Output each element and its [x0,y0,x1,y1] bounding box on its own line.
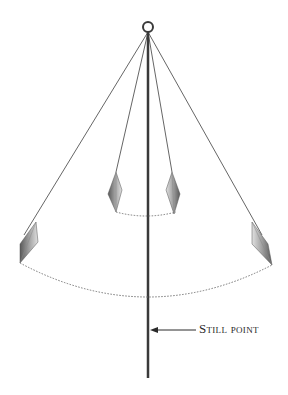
outer-left-pendulum-icon [20,222,38,263]
inner-right-pendulum-icon [166,172,180,214]
outer-right-pendulum-icon [252,222,272,265]
small-swing-arc [116,212,176,216]
inner-left-pendulum-icon [108,172,122,212]
large-swing-arc [20,263,272,297]
suspension-ring-icon [143,22,153,32]
pendulum-strings [24,32,262,235]
still-point-label: Still point [199,321,259,337]
still-point-arrow-icon [150,327,196,333]
